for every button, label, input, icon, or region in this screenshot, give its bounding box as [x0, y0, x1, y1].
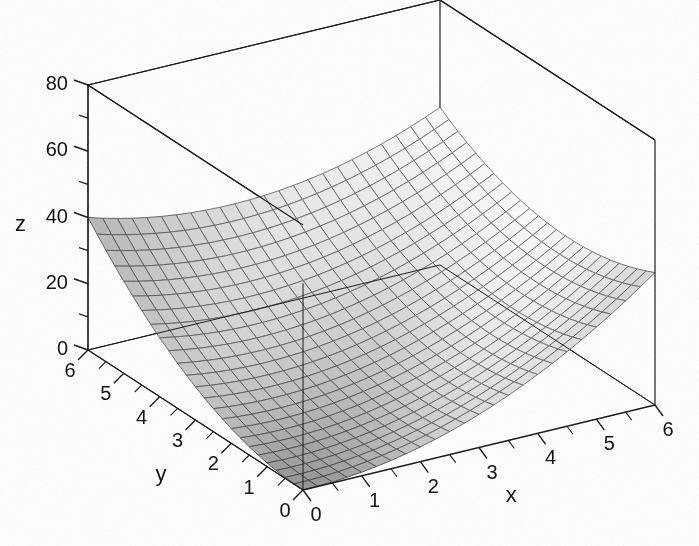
z-tick-label-80: 80: [46, 73, 68, 93]
y-tick-label-2: 2: [208, 453, 219, 473]
y-tick-label-3: 3: [172, 430, 183, 450]
x-tick-label-2: 2: [428, 476, 439, 496]
x-tick-label-6: 6: [662, 419, 673, 439]
surface-plot-canvas: [0, 0, 699, 546]
x-tick-label-4: 4: [545, 447, 556, 467]
y-tick-label-6: 6: [64, 360, 75, 380]
x-tick-label-0: 0: [310, 504, 321, 524]
x-tick-label-1: 1: [369, 490, 380, 510]
x-axis-label: x: [506, 484, 517, 506]
z-tick-label-20: 20: [46, 272, 68, 292]
x-tick-label-5: 5: [604, 433, 615, 453]
y-axis-label: y: [156, 463, 167, 485]
z-tick-label-0: 0: [57, 338, 68, 358]
x-tick-label-3: 3: [486, 462, 497, 482]
surface-plot-figure: 80 60 40 20 0 z 6 5 4 3 2 1 0 y 0 1 2 3 …: [0, 0, 699, 546]
y-tick-label-4: 4: [136, 407, 147, 427]
y-tick-label-5: 5: [100, 383, 111, 403]
z-tick-label-60: 60: [46, 139, 68, 159]
y-tick-label-0: 0: [279, 500, 290, 520]
z-axis-label: z: [15, 213, 26, 235]
y-tick-label-1: 1: [244, 477, 255, 497]
z-tick-label-40: 40: [46, 206, 68, 226]
